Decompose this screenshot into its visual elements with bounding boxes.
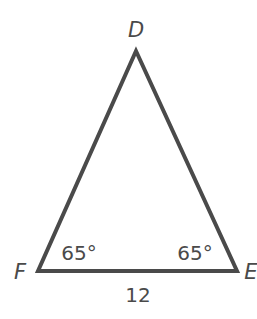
triangle-diagram: D F E 65° 65° 12 (0, 0, 257, 319)
vertex-label-e: E (244, 260, 257, 284)
side-label-fe: 12 (125, 283, 150, 307)
triangle-def (38, 51, 237, 271)
angle-label-e: 65° (177, 241, 212, 265)
angle-label-f: 65° (61, 241, 96, 265)
vertex-label-d: D (128, 18, 144, 42)
vertex-label-f: F (14, 260, 27, 284)
